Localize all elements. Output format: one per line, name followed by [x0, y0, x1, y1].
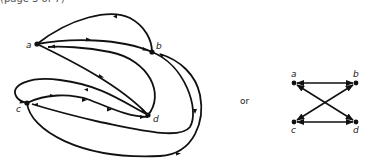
- node-b: [354, 81, 359, 86]
- edge-b-c-long-arc: [32, 52, 193, 133]
- arrow-icon: [113, 15, 117, 19]
- arrow-icon: [140, 115, 145, 119]
- node-label-b: b: [156, 41, 162, 51]
- separator-or: or: [240, 96, 250, 106]
- arrow-icon: [84, 88, 88, 92]
- node-label-a: a: [291, 69, 297, 79]
- node-label-d: d: [353, 125, 359, 135]
- right-simple-graph: a b c d: [291, 69, 359, 135]
- arrow-icon: [50, 45, 55, 49]
- node-d: [354, 120, 359, 125]
- arrow-icon: [99, 74, 105, 78]
- arrow-icon: [176, 152, 181, 156]
- node-a: [292, 81, 297, 86]
- diagram-canvas: a b c d or a b c d: [0, 0, 365, 163]
- node-a: [34, 41, 39, 46]
- node-label-a: a: [26, 40, 32, 50]
- node-label-c: c: [16, 104, 21, 114]
- node-label-b: b: [353, 69, 359, 79]
- arrow-icon: [143, 47, 149, 51]
- node-c: [292, 120, 297, 125]
- arrow-icon: [50, 94, 55, 98]
- left-multigraph: a b c d: [15, 14, 201, 156]
- node-label-c: c: [291, 125, 296, 135]
- node-label-d: d: [153, 114, 159, 124]
- node-d: [145, 112, 150, 117]
- node-c: [24, 100, 29, 105]
- node-b: [149, 49, 154, 54]
